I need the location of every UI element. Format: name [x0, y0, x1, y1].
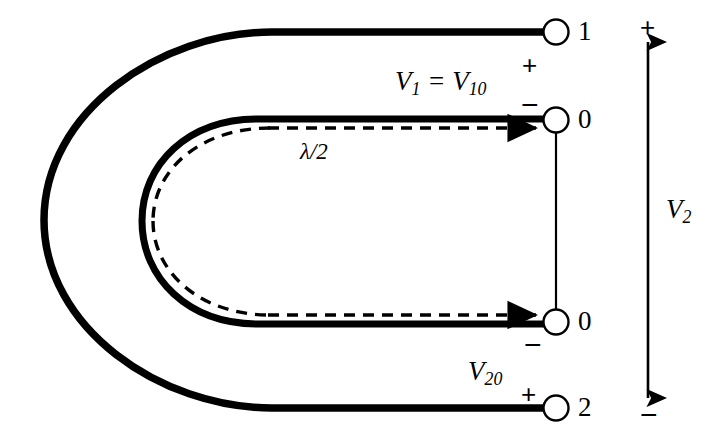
v20-symbol: V [468, 356, 485, 386]
terminal-label-2: 2 [578, 394, 592, 421]
terminal-circle-2 [544, 396, 569, 421]
v20-label: V20 [468, 358, 502, 389]
v10-symbol: V [452, 66, 469, 96]
equals-sign: = [420, 66, 452, 96]
v2-minus-sign: − [640, 400, 658, 430]
v2-label: V2 [666, 196, 691, 227]
inner-conductor-path [142, 119, 545, 324]
terminal-label-0-upper: 0 [578, 106, 592, 133]
terminal-circle-0-lower [544, 310, 569, 335]
v1-equals-v10-label: V1 = V10 [395, 68, 486, 99]
v20-minus-sign: − [524, 330, 542, 360]
v2-symbol: V [666, 194, 683, 224]
v1-symbol: V [395, 66, 412, 96]
v20-plus-sign: + [521, 381, 536, 407]
v1-minus-sign: − [521, 90, 539, 120]
v2-plus-sign: + [640, 14, 655, 40]
schematic-svg [0, 0, 727, 438]
terminal-label-0-lower: 0 [578, 308, 592, 335]
v1-plus-sign: + [522, 52, 537, 78]
v10-subscript: 10 [469, 79, 487, 99]
half-wavelength-label: λ/2 [300, 140, 328, 163]
dashed-path-lower-curve [153, 221, 270, 315]
v2-subscript: 2 [683, 207, 692, 227]
dashed-path-upper-curve [153, 128, 270, 221]
diagram-canvas: 1 0 0 2 V1 = V10 + − λ/2 − V20 + + V2 − [0, 0, 727, 438]
v20-subscript: 20 [485, 369, 503, 389]
terminal-label-1: 1 [578, 18, 592, 45]
terminal-circle-0-upper [544, 108, 569, 133]
terminal-circle-1 [544, 20, 569, 45]
